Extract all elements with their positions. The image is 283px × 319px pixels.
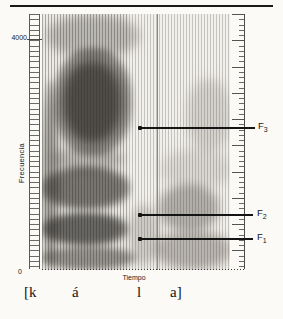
ruler-tick bbox=[239, 229, 244, 230]
ruler-tick bbox=[30, 224, 39, 225]
ruler-tick bbox=[30, 114, 39, 115]
ruler-tick bbox=[30, 166, 39, 167]
ruler-tick bbox=[30, 14, 39, 15]
f1-arrow-line bbox=[140, 238, 253, 240]
ruler-tick bbox=[30, 61, 39, 62]
ruler-tick bbox=[239, 193, 244, 194]
ruler-tick bbox=[30, 51, 39, 52]
ruler-tick bbox=[30, 35, 39, 36]
ruler-tick bbox=[239, 166, 244, 167]
ruler-tick bbox=[239, 240, 244, 241]
ruler-tick bbox=[30, 124, 39, 125]
top-rule bbox=[10, 5, 273, 7]
ruler-tick bbox=[239, 51, 244, 52]
x-axis-label: Tiempo bbox=[110, 274, 158, 281]
ruler-tick bbox=[239, 266, 244, 267]
ruler-tick bbox=[30, 161, 39, 162]
transcription-seg-k: [k bbox=[24, 284, 37, 301]
y-axis-label: Frecuencia bbox=[17, 143, 26, 183]
ruler-tick bbox=[30, 30, 39, 31]
ruler-tick bbox=[232, 224, 244, 225]
f3-label-sub: 3 bbox=[264, 126, 268, 133]
ruler-tick bbox=[30, 40, 39, 41]
ruler-tick bbox=[30, 256, 39, 257]
f1-label-sub: 1 bbox=[263, 237, 267, 244]
ruler-tick bbox=[30, 67, 39, 68]
ruler-tick bbox=[239, 19, 244, 20]
ruler-tick bbox=[239, 235, 244, 236]
segment-boundary-line bbox=[157, 14, 158, 270]
ruler-tick bbox=[30, 187, 39, 188]
ruler-tick bbox=[30, 203, 39, 204]
ruler-tick bbox=[30, 266, 39, 267]
ruler-tick bbox=[239, 61, 244, 62]
ruler-tick bbox=[239, 109, 244, 110]
ruler-tick bbox=[239, 30, 244, 31]
ruler-tick bbox=[232, 145, 244, 146]
ruler-tick bbox=[239, 56, 244, 57]
ruler-tick bbox=[239, 187, 244, 188]
f1-label: F1 bbox=[257, 231, 267, 244]
transcription-seg-a2: a] bbox=[170, 284, 182, 301]
ruler-tick bbox=[239, 82, 244, 83]
ruler-tick bbox=[239, 203, 244, 204]
time-axis-baseline bbox=[42, 269, 245, 270]
ruler-tick bbox=[30, 46, 39, 47]
ruler-tick bbox=[239, 114, 244, 115]
ruler-tick bbox=[30, 229, 39, 230]
ruler-tick bbox=[232, 14, 244, 15]
f2-arrow-line bbox=[140, 214, 253, 216]
f2-label: F2 bbox=[257, 207, 267, 220]
ruler-tick bbox=[30, 182, 39, 183]
ruler-tick bbox=[239, 98, 244, 99]
ruler-tick bbox=[239, 88, 244, 89]
ruler-tick bbox=[30, 103, 39, 104]
y-tick-4000: 4000 bbox=[6, 34, 27, 41]
ruler-tick bbox=[30, 235, 39, 236]
ruler-tick bbox=[30, 93, 39, 94]
ruler-tick bbox=[239, 161, 244, 162]
ruler-tick bbox=[30, 119, 39, 120]
ruler-tick bbox=[232, 250, 244, 251]
ruler-tick bbox=[30, 130, 39, 131]
ruler-tick bbox=[239, 25, 244, 26]
ruler-tick bbox=[30, 177, 39, 178]
ruler-tick bbox=[239, 156, 244, 157]
ruler-tick bbox=[239, 124, 244, 125]
voicing-striations-overlay bbox=[42, 14, 230, 270]
ruler-tick bbox=[30, 109, 39, 110]
ruler-tick bbox=[30, 240, 39, 241]
ruler-tick bbox=[239, 177, 244, 178]
ruler-tick bbox=[30, 88, 39, 89]
ruler-tick bbox=[30, 172, 39, 173]
ruler-tick bbox=[30, 56, 39, 57]
ruler-tick bbox=[30, 82, 39, 83]
ruler-tick bbox=[239, 77, 244, 78]
ruler-tick bbox=[30, 135, 39, 136]
ruler-tick bbox=[239, 208, 244, 209]
ruler-tick bbox=[239, 140, 244, 141]
ruler-tick bbox=[239, 130, 244, 131]
ruler-tick bbox=[232, 198, 244, 199]
ruler-tick bbox=[232, 93, 244, 94]
right-frequency-ruler bbox=[231, 14, 245, 269]
ruler-tick bbox=[30, 198, 39, 199]
ruler-tick bbox=[30, 214, 39, 215]
f3-label: F3 bbox=[258, 120, 268, 133]
transcription-seg-l: l bbox=[137, 284, 141, 301]
ruler-tick bbox=[30, 250, 39, 251]
ruler-tick bbox=[30, 145, 39, 146]
ruler-tick bbox=[239, 261, 244, 262]
ruler-tick bbox=[30, 151, 39, 152]
spectrogram-figure: Frecuencia 4000 0 F3 F2 F1 Tiempo [k á l… bbox=[0, 0, 283, 319]
transcription-seg-a1: á bbox=[72, 284, 79, 301]
ruler-tick bbox=[30, 245, 39, 246]
f3-arrow-line bbox=[140, 127, 255, 129]
ruler-tick bbox=[30, 72, 39, 73]
ruler-tick bbox=[30, 193, 39, 194]
ruler-tick bbox=[30, 25, 39, 26]
ruler-tick bbox=[239, 219, 244, 220]
ruler-tick bbox=[232, 119, 244, 120]
ruler-tick bbox=[30, 98, 39, 99]
ruler-tick bbox=[239, 103, 244, 104]
